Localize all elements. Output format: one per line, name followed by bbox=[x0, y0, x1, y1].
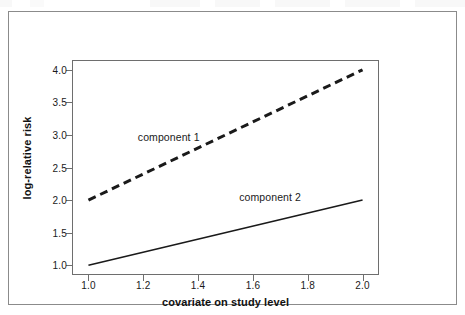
x-axis-title: covariate on study level bbox=[72, 296, 379, 308]
series-line-component-1 bbox=[88, 70, 362, 200]
plot-area: component 1component 2 bbox=[72, 60, 379, 275]
figure-page: component 1component 2 1.01.52.02.53.03.… bbox=[0, 0, 465, 315]
series-line-component-2 bbox=[88, 200, 362, 265]
y-axis-title: log-relative risk bbox=[21, 78, 33, 238]
x-tick-label: 2.0 bbox=[355, 280, 370, 291]
y-tick-label: 1.5 bbox=[52, 227, 67, 238]
x-axis-tick-labels: 1.01.21.41.61.82.0 bbox=[72, 280, 379, 296]
x-tick-label: 1.6 bbox=[246, 280, 261, 291]
scan-artifact-strip bbox=[0, 0, 465, 7]
series-label-component-1: component 1 bbox=[138, 131, 200, 143]
x-tick-label: 1.2 bbox=[136, 280, 151, 291]
series-label-component-2: component 2 bbox=[239, 191, 301, 203]
y-tick-label: 4.0 bbox=[52, 64, 67, 75]
y-tick-label: 3.0 bbox=[52, 129, 67, 140]
series-layer bbox=[72, 60, 379, 275]
x-tick-label: 1.4 bbox=[191, 280, 206, 291]
x-tick-label: 1.0 bbox=[81, 280, 96, 291]
y-axis-tick-labels: 1.01.52.02.53.03.54.0 bbox=[37, 60, 67, 275]
y-tick-label: 2.0 bbox=[52, 195, 67, 206]
figure-frame: component 1component 2 1.01.52.02.53.03.… bbox=[8, 11, 457, 305]
y-tick-label: 2.5 bbox=[52, 162, 67, 173]
y-tick-label: 3.5 bbox=[52, 97, 67, 108]
y-tick-label: 1.0 bbox=[52, 260, 67, 271]
x-tick-label: 1.8 bbox=[300, 280, 315, 291]
